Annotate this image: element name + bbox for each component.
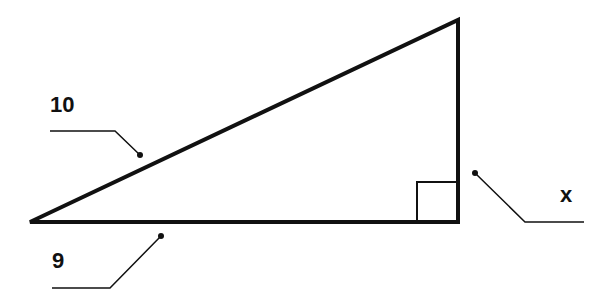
hypotenuse-leader-dot (137, 152, 143, 158)
height-label: x (560, 182, 572, 208)
base-leader-dot (158, 233, 164, 239)
right-angle-marker (417, 182, 458, 222)
base-leader-line (52, 236, 161, 288)
right-triangle (30, 20, 458, 222)
hypotenuse-leader-line (50, 131, 140, 155)
base-label: 9 (52, 248, 64, 274)
hypotenuse-label: 10 (50, 92, 74, 118)
triangle-diagram (0, 0, 612, 302)
height-leader-dot (472, 170, 478, 176)
